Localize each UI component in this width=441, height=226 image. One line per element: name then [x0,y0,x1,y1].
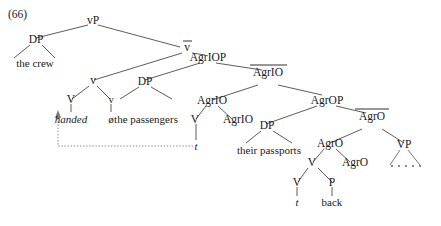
node-agro-mid: AgrO [317,137,343,150]
node-v-agrio: V [191,113,200,125]
node-agrop: AgrOP [311,94,344,107]
node-v-agro: V [308,156,317,168]
terminal-particle: back [322,196,343,208]
node-p-bottom: P [329,176,335,188]
node-agrio-mid: AgrIO [197,94,227,107]
terminal-trace-2: t [295,196,299,208]
syntax-tree-figure: (66) vP DP v v V v AgrIOP AgrIO DP AgrIO… [0,0,441,226]
node-v-upper: v [90,74,96,86]
terminal-subject: the crew [16,57,54,69]
node-v-little: v [108,94,114,105]
terminal-trace-1: t [194,140,198,152]
node-dp-subject: DP [29,33,44,45]
node-v-capital: V [67,93,76,105]
node-agriop: AgrIOP [190,51,226,64]
example-number: (66) [8,8,27,21]
syntax-tree-svg: (66) vP DP v v V v AgrIOP AgrIO DP AgrIO… [0,0,441,226]
node-agro-bar: AgrO [359,110,385,123]
node-agrio-bar: AgrIO [253,66,283,79]
node-vp-right: VP [397,138,412,150]
tree-node-labels: vP DP v v V v AgrIOP AgrIO DP AgrIO V Ag… [29,14,412,188]
terminal-verb: handed [55,113,88,125]
terminal-indirect-object: the passengers [114,113,178,125]
node-vp: vP [87,14,99,26]
node-dp-object: DP [260,119,275,131]
terminal-direct-object: their passports [237,144,301,156]
node-dp-indirect-object: DP [138,75,153,87]
node-v-bottom: V [293,176,302,188]
node-agrio-low: AgrIO [223,113,253,126]
node-agro-low: AgrO [342,156,368,169]
vp-ellipsis-dots [391,165,421,167]
